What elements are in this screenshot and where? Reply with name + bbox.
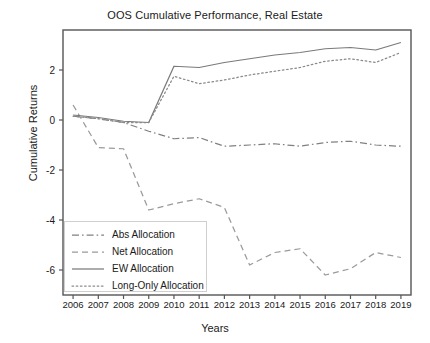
y-tick-label: -6	[29, 265, 55, 276]
legend-label: EW Allocation	[112, 263, 174, 274]
chart-legend: Abs AllocationNet AllocationEW Allocatio…	[64, 221, 207, 292]
x-tick-label: 2009	[138, 299, 159, 310]
y-tick-label: -2	[29, 165, 55, 176]
y-tick-label: -4	[29, 215, 55, 226]
x-tick-label: 2018	[365, 299, 386, 310]
chart-figure: OOS Cumulative Performance, Real Estate …	[0, 0, 430, 343]
legend-label: Net Allocation	[112, 246, 173, 257]
x-tick-label: 2013	[239, 299, 260, 310]
chart-title: OOS Cumulative Performance, Real Estate	[0, 9, 430, 21]
legend-item-abs-allocation[interactable]: Abs Allocation	[71, 226, 175, 243]
x-tick-label: 2014	[264, 299, 285, 310]
x-tick-label: 2015	[289, 299, 310, 310]
legend-item-long-only-allocation[interactable]: Long-Only Allocation	[71, 277, 204, 294]
x-tick-label: 2007	[88, 299, 109, 310]
x-axis-label: Years	[0, 322, 430, 334]
y-tick-label: 0	[29, 115, 55, 126]
series-line-long-only-allocation	[73, 53, 401, 123]
legend-item-net-allocation[interactable]: Net Allocation	[71, 243, 173, 260]
legend-line-sample-icon	[71, 263, 105, 275]
legend-line-sample-icon	[71, 280, 105, 292]
legend-label: Abs Allocation	[112, 229, 175, 240]
legend-line-sample-icon	[71, 229, 105, 241]
legend-item-ew-allocation[interactable]: EW Allocation	[71, 260, 174, 277]
legend-line-sample-icon	[71, 246, 105, 258]
x-tick-label: 2017	[340, 299, 361, 310]
series-line-ew-allocation	[73, 43, 401, 123]
y-tick-label: 2	[29, 65, 55, 76]
x-tick-label: 2008	[113, 299, 134, 310]
x-tick-label: 2019	[390, 299, 411, 310]
legend-label: Long-Only Allocation	[112, 280, 204, 291]
x-tick-label: 2016	[315, 299, 336, 310]
x-tick-label: 2012	[214, 299, 235, 310]
x-tick-label: 2011	[189, 299, 209, 310]
x-tick-label: 2010	[163, 299, 184, 310]
x-tick-label: 2006	[63, 299, 84, 310]
